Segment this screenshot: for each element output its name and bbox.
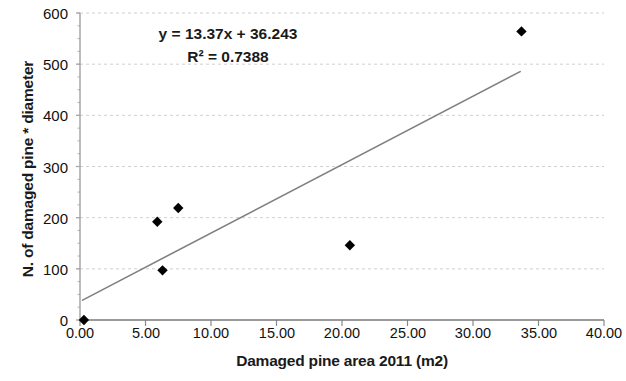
data-point: [157, 265, 167, 275]
gridlines: [80, 13, 604, 269]
scatter-chart: N. of damaged pine * diameter Damaged pi…: [0, 0, 626, 381]
trend-line: [83, 72, 521, 300]
data-point: [173, 203, 183, 213]
x-axis-tick-marks: [80, 320, 604, 326]
data-markers: [79, 26, 527, 325]
plot-area: [0, 0, 626, 381]
data-point: [345, 240, 355, 250]
data-point: [516, 26, 526, 36]
